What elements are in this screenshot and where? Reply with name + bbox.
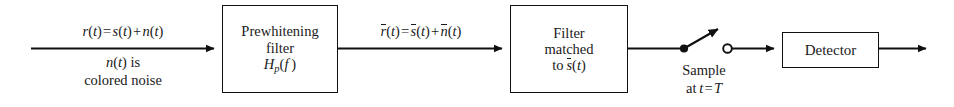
matched-filter-target: to s(t) bbox=[552, 57, 586, 73]
block-matched-filter: Filter matched to s(t) bbox=[510, 5, 628, 93]
sampler-line-1: Sample bbox=[648, 62, 760, 80]
block-prewhitening-filter: Prewhitening filter Hp(f ) bbox=[222, 5, 338, 93]
matched-filter-line-1: Filter bbox=[553, 25, 584, 41]
switch-arm bbox=[684, 29, 718, 49]
block-diagram: r(t) = s(t) + n(t) n(t) is colored noise… bbox=[0, 0, 954, 107]
detector-label: Detector bbox=[805, 42, 857, 59]
matched-filter-line-2: matched bbox=[544, 41, 593, 57]
prewhitening-line-2: filter bbox=[266, 40, 294, 56]
noise-line-1: n(t) is bbox=[31, 54, 215, 72]
prewhitened-signal-label: r(t) = s(t) + n(t) bbox=[341, 23, 501, 41]
input-equation: r(t) = s(t) + n(t) bbox=[31, 23, 215, 41]
prewhitened-equation: r bbox=[381, 23, 387, 41]
sampler-label: Sample at t = T bbox=[648, 62, 760, 97]
input-noise-description: n(t) is colored noise bbox=[31, 54, 215, 89]
noise-line-2: colored noise bbox=[31, 72, 215, 90]
input-signal-label: r(t) = s(t) + n(t) bbox=[31, 23, 215, 41]
prewhitening-transfer-function: Hp(f ) bbox=[264, 56, 296, 75]
sampler-line-2: at t = T bbox=[648, 80, 760, 98]
switch-throw-circle bbox=[723, 44, 732, 53]
switch-pole-dot bbox=[680, 44, 688, 52]
prewhitening-line-1: Prewhitening bbox=[241, 23, 318, 39]
block-detector: Detector bbox=[782, 32, 879, 68]
